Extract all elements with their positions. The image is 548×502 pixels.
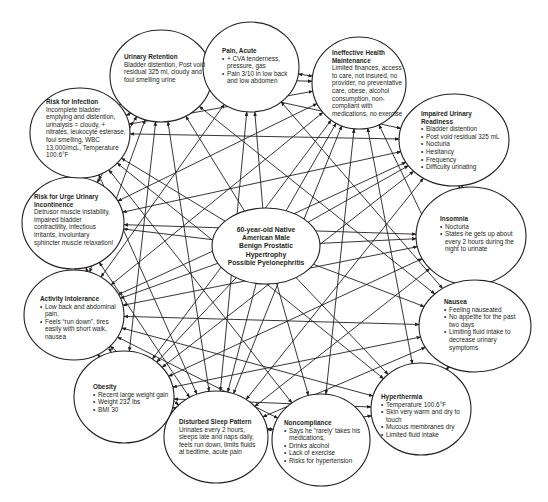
edge-nausea-to-activity-intolerance <box>124 316 419 324</box>
edge-center-to-pain-acute <box>255 112 263 208</box>
edge-center-to-activity-intolerance <box>120 263 217 298</box>
node-bullet: Drinks alcohol <box>284 442 366 450</box>
node-nausea[interactable]: NauseaFeeling nauseatedNo appetite for t… <box>444 298 520 351</box>
node-noncompliance[interactable]: NoncomplianceSays he “rarely’ takes his … <box>284 419 366 465</box>
node-bullet: Bladder distention <box>421 125 505 133</box>
center-line: Benign Prostatic <box>212 242 320 250</box>
node-bullet: States he gets up about every 2 hours du… <box>440 230 518 253</box>
node-title: Impaired Urinary Readiness <box>421 110 505 125</box>
node-bullet: BMI 30 <box>93 406 169 414</box>
node-description: Limited finances, access to care, not in… <box>332 64 408 117</box>
central-patient-node[interactable]: 60-year-old Native American Male Benign … <box>212 226 320 267</box>
node-bullet: Pain 3/10 in low back and low abdomen <box>222 70 296 85</box>
node-description: Incomplete bladder emptying and distenti… <box>46 106 126 159</box>
node-bullet: Post void residual 325 mL <box>421 133 505 141</box>
node-bullet: No appetite for the past two days <box>444 313 520 328</box>
node-bullet: Feeling nauseated <box>444 306 520 314</box>
node-disturbed-sleep-pattern[interactable]: Disturbed Sleep PatternUrinates every 2 … <box>179 418 259 456</box>
node-title: Insomnia <box>440 215 518 223</box>
edge-center-to-noncompliance <box>277 283 309 395</box>
node-bullet: Hesitancy <box>421 148 505 156</box>
node-bullet-list: Bladder distentionPost void residual 325… <box>421 125 505 171</box>
edge-center-to-hyperthermia <box>296 278 388 375</box>
node-bullet: Mucous membranes dry <box>381 423 473 431</box>
node-description: Bladder distention, Post void residual 3… <box>124 61 206 84</box>
node-bullet: Feels “run down”, tires easily with shor… <box>40 318 116 341</box>
node-title: Obesity <box>93 383 169 391</box>
node-title: Ineffective Health Maintenance <box>332 49 408 64</box>
node-title: Risk for Urge Urinary Incontinence <box>34 193 116 208</box>
node-title: Hyperthermia <box>381 393 473 401</box>
node-bullet: Recent large weight gain <box>93 391 169 399</box>
node-bullet: + CVA tenderness, pressure, gas <box>222 55 296 70</box>
node-title: Urinary Retention <box>124 53 206 61</box>
node-bullet-list: Low back and abdominal pain,Feels “run d… <box>40 303 116 341</box>
node-bullet: Frequency <box>421 156 505 164</box>
node-bullet: Nocturia <box>440 223 518 231</box>
center-line: Possible Pyelonephritis <box>212 259 320 267</box>
node-bullet-list: Temperature 100.6°FSkin very warm and dr… <box>381 401 473 439</box>
node-bullet: Weight 232 lbs <box>93 398 169 406</box>
node-risk-for-urge-urinary-incontinence[interactable]: Risk for Urge Urinary IncontinenceDetrus… <box>34 193 116 246</box>
node-obesity[interactable]: ObesityRecent large weight gainWeight 23… <box>93 383 169 413</box>
edge-impaired-urinary-readiness-to-risk-for-urge-urinary-incontinence <box>123 152 401 213</box>
node-title: Noncompliance <box>284 419 366 427</box>
node-bullet: Skin very warm and dry to touch <box>381 408 473 423</box>
edge-urinary-retention-to-disturbed-sleep-pattern <box>168 122 209 392</box>
node-bullet-list: NocturiaStates he gets up about every 2 … <box>440 223 518 253</box>
node-title: Disturbed Sleep Pattern <box>179 418 259 426</box>
center-line: American Male <box>212 234 320 242</box>
node-bullet: Limited fluid intake <box>381 431 473 439</box>
node-hyperthermia[interactable]: HyperthermiaTemperature 100.6°FSkin very… <box>381 393 473 439</box>
edge-pain-acute-to-ineffective-health-maintenance <box>298 74 312 76</box>
node-bullet: Difficulty urinating <box>421 163 505 171</box>
node-bullet-list: Recent large weight gainWeight 232 lbsBM… <box>93 391 169 414</box>
edge-center-to-impaired-urinary-readiness <box>308 166 408 223</box>
node-bullet: Nocturia <box>421 140 505 148</box>
node-title: Pain, Acute <box>222 47 296 55</box>
node-bullet: Limiting fluid intake to decrease urinar… <box>444 328 520 351</box>
node-bullet-list: Says he “rarely’ takes his medications,D… <box>284 427 366 465</box>
node-activity-intolerance[interactable]: Activity IntoleranceLow back and abdomin… <box>40 295 116 341</box>
node-description: Urinates every 2 hours, sleeps late and … <box>179 426 259 456</box>
node-impaired-urinary-readiness[interactable]: Impaired Urinary ReadinessBladder disten… <box>421 110 505 171</box>
edge-ineffective-health-maintenance-to-noncompliance <box>326 129 354 394</box>
edge-center-to-nausea <box>313 264 424 306</box>
node-bullet-list: Feeling nauseatedNo appetite for the pas… <box>444 306 520 352</box>
node-ineffective-health-maintenance[interactable]: Ineffective Health MaintenanceLimited fi… <box>332 49 408 117</box>
node-title: Risk for Infection <box>46 98 126 106</box>
node-title: Nausea <box>444 298 520 306</box>
node-insomnia[interactable]: InsomniaNocturiaStates he gets up about … <box>440 215 518 253</box>
node-bullet: Temperature 100.6°F <box>381 401 473 409</box>
edge-center-to-risk-for-infection <box>121 158 225 221</box>
node-bullet: Low back and abdominal pain, <box>40 303 116 318</box>
node-bullet: Says he “rarely’ takes his medications, <box>284 427 366 442</box>
node-bullet: Lack of exercise <box>284 449 366 457</box>
node-pain-acute[interactable]: Pain, Acute+ CVA tenderness, pressure, g… <box>222 47 296 85</box>
node-title: Activity Intolerance <box>40 295 116 303</box>
node-bullet: Risks for hypertension <box>284 457 366 465</box>
center-line: 60-year-old Native <box>212 226 320 234</box>
node-description: Detrusor muscle instability, impaired bl… <box>34 208 116 246</box>
node-urinary-retention[interactable]: Urinary RetentionBladder distention, Pos… <box>124 53 206 83</box>
center-line: Hypertrophy <box>212 251 320 259</box>
node-bullet-list: + CVA tenderness, pressure, gasPain 3/10… <box>222 55 296 85</box>
node-risk-for-infection[interactable]: Risk for InfectionIncomplete bladder emp… <box>46 98 126 159</box>
